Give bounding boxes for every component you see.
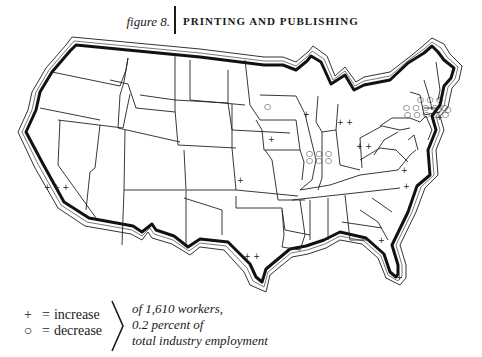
symbol-wisconsin: +	[303, 110, 310, 119]
legend-note-line-2: 0.2 percent of	[132, 317, 203, 333]
plus-icon: +	[20, 307, 36, 323]
symbol-michigan: + +	[337, 118, 353, 127]
us-map: + + + ○ + + + + + ○ ○ ○ ○ ○ ○ + + + + ○ …	[0, 0, 482, 357]
symbol-illinois-row-2: ○ ○ ○	[306, 156, 332, 165]
symbol-california: + + +	[44, 183, 69, 192]
circle-icon: ○	[20, 323, 36, 339]
legend-bracket-icon	[111, 299, 125, 353]
legend-decrease: ○=decrease	[20, 323, 102, 339]
symbol-georgia: +	[378, 236, 385, 245]
increase-label: increase	[54, 307, 100, 322]
legend-increase: +=increase	[20, 307, 100, 323]
decrease-label: decrease	[54, 323, 102, 338]
legend-note-line-1: of 1,610 workers,	[132, 301, 223, 317]
symbol-kansas: +	[237, 176, 244, 185]
legend-note-line-3: total industry employment	[132, 333, 268, 349]
symbol-virginia: +	[401, 166, 408, 175]
legend: +=increase ○=decrease of 1,610 workers, …	[20, 307, 320, 353]
symbol-florida: +	[396, 273, 403, 282]
symbol-texas: + +	[244, 252, 260, 261]
symbol-ohio: + +	[356, 142, 372, 151]
symbol-connecticut: +	[436, 113, 443, 122]
map-symbols: + + + ○ + + + + + ○ ○ ○ ○ ○ ○ + + + + ○ …	[44, 95, 452, 282]
map-outer-border	[18, 37, 462, 292]
symbol-minnesota: ○	[264, 102, 271, 111]
equals-sign: =	[42, 307, 50, 322]
symbol-north-carolina: +	[403, 182, 410, 191]
symbol-iowa: +	[268, 135, 275, 144]
equals-sign: =	[42, 323, 50, 338]
